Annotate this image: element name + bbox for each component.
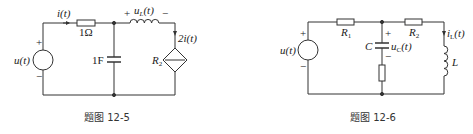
minus-sign: − xyxy=(36,70,42,82)
voltage-source-icon xyxy=(298,40,318,60)
wire xyxy=(308,22,337,40)
source-label: u(t) xyxy=(280,44,296,57)
arrowhead-icon xyxy=(442,31,446,36)
arrowhead-icon xyxy=(173,31,177,36)
node-dot xyxy=(112,21,115,24)
voltage-source-icon xyxy=(33,50,53,70)
figure-12-5 xyxy=(33,19,187,96)
plus-sign: + xyxy=(385,27,391,39)
r2-label: R2 xyxy=(408,26,420,40)
node-dot xyxy=(380,20,383,23)
plus-sign: + xyxy=(36,36,42,48)
circuit-diagrams: + − u(t) i(t) 1Ω + uL(t) − 1F 2i(t) R2 题… xyxy=(0,0,473,134)
arrowhead-icon xyxy=(66,21,70,25)
figure-caption: 题图 12-6 xyxy=(350,112,396,123)
resistor-r2-icon xyxy=(405,19,422,25)
figure-12-5-labels: + − u(t) i(t) 1Ω + uL(t) − 1F 2i(t) R2 题… xyxy=(14,4,197,123)
inductor-icon xyxy=(444,46,448,76)
figure-caption: 题图 12-5 xyxy=(84,112,130,123)
plus-sign: + xyxy=(300,27,306,39)
resistor-icon xyxy=(379,65,385,81)
wire xyxy=(308,60,444,94)
inductor-current-label: iL(t) xyxy=(447,27,465,41)
capacitor-label: 1F xyxy=(92,54,104,66)
inductor-label: L xyxy=(451,56,458,68)
wire xyxy=(43,23,77,50)
capacitor-voltage-label: uC(t) xyxy=(391,40,412,54)
r1-label: R1 xyxy=(340,26,352,40)
resistor-r1-icon xyxy=(337,19,354,25)
source-label: u(t) xyxy=(14,54,30,67)
inductor-voltage-label: uL(t) xyxy=(134,4,154,18)
capacitor-label: C xyxy=(365,40,373,52)
resistor-label: 1Ω xyxy=(79,26,93,38)
dependent-source-value: 2i(t) xyxy=(178,32,197,45)
minus-sign: − xyxy=(162,7,168,19)
plus-sign: + xyxy=(124,7,130,19)
node-dot xyxy=(380,92,383,95)
current-label: i(t) xyxy=(57,7,71,20)
figure-12-6 xyxy=(298,19,448,96)
inductor-icon xyxy=(130,19,159,23)
dependent-source-name: R2 xyxy=(151,54,163,68)
wire xyxy=(43,70,175,95)
node-dot xyxy=(112,93,115,96)
minus-sign: − xyxy=(300,60,306,72)
